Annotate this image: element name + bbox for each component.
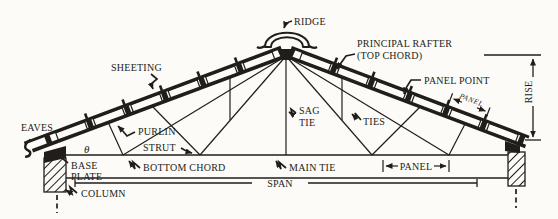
rise-label: RISE: [523, 81, 534, 104]
column-leader: [66, 187, 77, 194]
column-label: COLUMN: [81, 188, 126, 199]
strut-label: STRUT: [143, 142, 176, 153]
purlin-leader: [118, 126, 135, 136]
right-principal-rafter: [282, 55, 525, 147]
eaves-label: EAVES: [21, 122, 53, 133]
strut-right-outer: [449, 124, 465, 155]
right-column: [508, 152, 525, 186]
strut-leader: [181, 148, 192, 153]
bottom-chord-leader: [129, 161, 140, 169]
left-column: [44, 158, 66, 192]
panel-upper-label: PANEL: [457, 91, 484, 109]
ties-leader: [352, 113, 361, 120]
supports: [44, 141, 525, 213]
sag-tie-label-line2: TIE: [299, 117, 315, 128]
ties-label: TIES: [363, 116, 385, 127]
purlin-label: PURLIN: [138, 126, 176, 137]
sheeting-leader: [151, 74, 157, 89]
panel-point-label: PANEL POINT: [424, 75, 490, 86]
sag-tie-leader: [289, 109, 296, 114]
truss-diagram: PANEL RISE SPAN PANEL: [0, 0, 558, 219]
principal-rafter-label-line2: (TOP CHORD): [357, 50, 422, 62]
strut-right-inner: [372, 107, 420, 155]
ridge-label: RIDGE: [294, 16, 326, 27]
main-tie-label: MAIN TIE: [289, 162, 336, 173]
principal-rafter-label-line1: PRINCIPAL RAFTER: [357, 38, 452, 49]
ridge-leader: [284, 21, 292, 28]
theta-label: θ: [84, 143, 90, 155]
sheeting-label: SHEETING: [111, 62, 162, 73]
base-plate-label-line1: BASE: [71, 160, 98, 171]
span-label: SPAN: [267, 178, 293, 189]
sag-tie-label-line1: SAG: [299, 105, 320, 116]
eaves-gutter-curl: [20, 140, 35, 157]
left-slope: [18, 41, 286, 157]
truss-figure: PANEL RISE SPAN PANEL: [0, 0, 558, 219]
main-tie-leader: [276, 161, 286, 169]
panel-lower-label: PANEL: [400, 161, 433, 172]
base-plate-label-line2: PLATE: [71, 171, 102, 182]
bottom-chord-label: BOTTOM CHORD: [143, 162, 226, 173]
strut-left-outer: [108, 122, 123, 155]
